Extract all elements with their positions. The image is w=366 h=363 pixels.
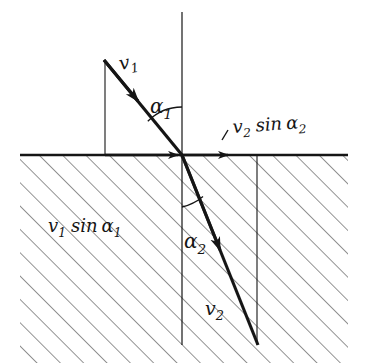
refraction-diagram: v1 α1 v2sinα2 v1sinα1 α2 v2 <box>0 0 366 363</box>
label-upper-projection: v2sinα2 <box>232 111 307 141</box>
hatch-fill <box>20 155 348 363</box>
label-incident-angle: α1 <box>150 94 172 122</box>
upper-projection-tick <box>222 130 228 140</box>
label-incident-speed: v1 <box>117 49 140 78</box>
refraction-figure-canvas: v1 α1 v2sinα2 v1sinα1 α2 v2 <box>0 0 366 363</box>
lower-medium-hatching <box>20 155 348 363</box>
